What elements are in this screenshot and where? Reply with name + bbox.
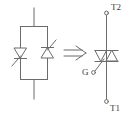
terminal-T2-node[interactable]: [105, 11, 109, 15]
thyristor-right: [42, 40, 57, 58]
figure-canvas: T2 G T1: [0, 0, 133, 117]
circuit-equivalence-diagram: T2 G T1: [0, 0, 133, 117]
triac-triangle-right: [107, 51, 118, 62]
triac-gate-lead: [95, 59, 104, 71]
thyristor-left-gate-lead: [12, 56, 21, 66]
left-circuit-group: [12, 8, 56, 99]
terminal-T1-node[interactable]: [105, 100, 109, 104]
terminal-G-label: G: [82, 67, 89, 77]
terminal-G-node[interactable]: [92, 71, 96, 75]
implies-arrow-group: [64, 46, 86, 60]
circuit-loop-rectangle: [21, 27, 48, 80]
thyristor-right-gate-lead: [48, 40, 57, 50]
terminal-T1-label: T1: [110, 103, 120, 113]
terminal-T2-label: T2: [111, 2, 121, 12]
right-circuit-group: [92, 11, 118, 103]
thyristor-left: [12, 48, 27, 66]
triac-triangle-left: [96, 51, 107, 62]
